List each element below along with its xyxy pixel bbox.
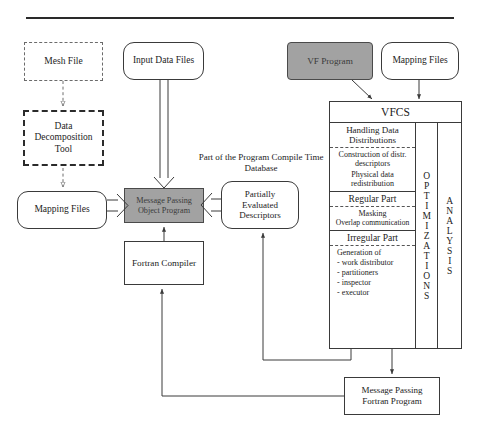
vfcs-group-items: Generation of - work distributor - parti… — [330, 246, 415, 300]
vfcs-g3-i4-l1: - inspector — [337, 278, 371, 287]
vfcs-body: Handling Data Distributions Construction… — [330, 123, 461, 348]
node-input-data-files: Input Data Files — [123, 42, 204, 80]
vfcs-group-1-header-line-1: Handling Data — [346, 125, 399, 135]
edge-vf-program-to-vfcs — [352, 80, 372, 99]
vfcs-g1-i1-l1: Construction of — [339, 150, 389, 159]
diagram-canvas: Mesh File Data Decomposition Tool Mappin… — [0, 0, 479, 440]
vfcs-g3-i2-l1: - work distributor — [337, 258, 393, 267]
vfcs-group-1-header-line-2: Distributions — [349, 135, 396, 145]
vfcs-g3-i3-l1: - partitioners — [337, 268, 378, 277]
node-mapping-files-right: Mapping Files — [381, 42, 459, 80]
vfcs-g3-i5-l1: - executor — [337, 288, 369, 297]
node-fortran-compiler-label: Fortran Compiler — [132, 258, 196, 269]
node-vf-program: VF Program — [287, 42, 373, 80]
node-data-decomposition-tool-line-2: Decomposition — [34, 132, 92, 143]
vfcs-item: Physical data redistribution — [330, 170, 415, 188]
vfcs-g3-i1-l1: Generation of — [337, 248, 381, 257]
vfcs-analysis-column: ANALYSIS — [438, 123, 461, 348]
vfcs-group-regular-part: Regular Part Masking Overlap communicati… — [330, 191, 415, 230]
node-partially-evaluated-descriptors-line-3: Descriptors — [239, 210, 281, 221]
node-mesh-file-label: Mesh File — [44, 56, 82, 67]
vfcs-g1-i2-l2: redistribution — [351, 179, 394, 188]
node-data-decomposition-tool: Data Decomposition Tool — [23, 110, 104, 166]
node-mapping-files-left-label: Mapping Files — [34, 204, 89, 215]
node-partially-evaluated-descriptors: Partially Evaluated Descriptors — [221, 181, 299, 229]
vfcs-title: VFCS — [330, 102, 461, 123]
vfcs-group-handling-data-distributions: Handling Data Distributions Construction… — [330, 123, 415, 191]
vfcs-title-label: VFCS — [381, 106, 410, 118]
edge-descriptors-to-object-program — [201, 193, 221, 217]
node-data-decomposition-tool-line-3: Tool — [55, 144, 72, 155]
node-partially-evaluated-descriptors-line-1: Partially — [245, 189, 276, 200]
node-partially-evaluated-descriptors-line-2: Evaluated — [242, 200, 278, 211]
vfcs-item: - executor — [330, 288, 415, 297]
vfcs-group-items: Construction of distr. descriptors Physi… — [330, 148, 415, 191]
vfcs-g3-header-line-1: Irregular Part — [347, 233, 398, 243]
vfcs-item: - partitioners — [330, 268, 415, 277]
vfcs-analysis-label: ANALYSIS — [443, 196, 456, 276]
vfcs-g2-i1-l1: Masking — [359, 209, 387, 218]
node-message-passing-object-program-line-2: Object Program — [138, 206, 190, 216]
vfcs-item: Generation of — [330, 248, 415, 257]
node-message-passing-object-program: Message Passing Object Program — [124, 188, 204, 223]
node-mapping-files-left: Mapping Files — [17, 191, 107, 229]
vfcs-item: - work distributor — [330, 258, 415, 267]
node-mesh-file: Mesh File — [24, 42, 103, 81]
node-mapping-files-right-label: Mapping Files — [392, 55, 447, 66]
annotation-compile-time-database: Part of the Program Compile Time Databas… — [196, 152, 326, 174]
vfcs-group-header: Irregular Part — [330, 231, 415, 246]
node-message-passing-fortran-program: Message Passing Fortran Program — [344, 377, 440, 415]
vfcs-group-items: Masking Overlap communication — [330, 207, 415, 230]
node-data-decomposition-tool-line-1: Data — [55, 121, 73, 132]
vfcs-g2-header-line-1: Regular Part — [349, 194, 397, 204]
vfcs-panel: VFCS Handling Data Distributions Constru… — [329, 101, 462, 349]
vfcs-item: Overlap communication — [330, 218, 415, 227]
top-horizontal-rule — [26, 17, 454, 19]
vfcs-group-header: Regular Part — [330, 192, 415, 207]
node-message-passing-fortran-program-line-2: Fortran Program — [362, 396, 422, 407]
vfcs-stage-list: Handling Data Distributions Construction… — [330, 123, 416, 348]
vfcs-group-irregular-part: Irregular Part Generation of - work dist… — [330, 230, 415, 348]
vfcs-g1-i2-l1: Physical data — [351, 170, 393, 179]
edge-input-to-object-program — [154, 80, 174, 188]
vfcs-item: Masking — [330, 209, 415, 218]
vfcs-item: Construction of distr. descriptors — [330, 150, 415, 168]
node-vf-program-label: VF Program — [307, 56, 353, 67]
node-message-passing-fortran-program-line-1: Message Passing — [361, 385, 422, 396]
node-input-data-files-label: Input Data Files — [133, 55, 194, 66]
vfcs-group-header: Handling Data Distributions — [330, 123, 415, 148]
edge-fortran-program-to-compiler — [162, 289, 344, 396]
vfcs-optimizations-column: OPTIMIZATIONS — [416, 123, 438, 348]
vfcs-item: - inspector — [330, 278, 415, 287]
node-message-passing-object-program-line-1: Message Passing — [136, 196, 192, 206]
annotation-compile-time-database-line-1: Part of the Program — [199, 152, 270, 162]
vfcs-optimizations-label: OPTIMIZATIONS — [420, 171, 433, 301]
node-fortran-compiler: Fortran Compiler — [124, 241, 204, 285]
vfcs-g2-i2-l1: Overlap communication — [336, 218, 410, 227]
